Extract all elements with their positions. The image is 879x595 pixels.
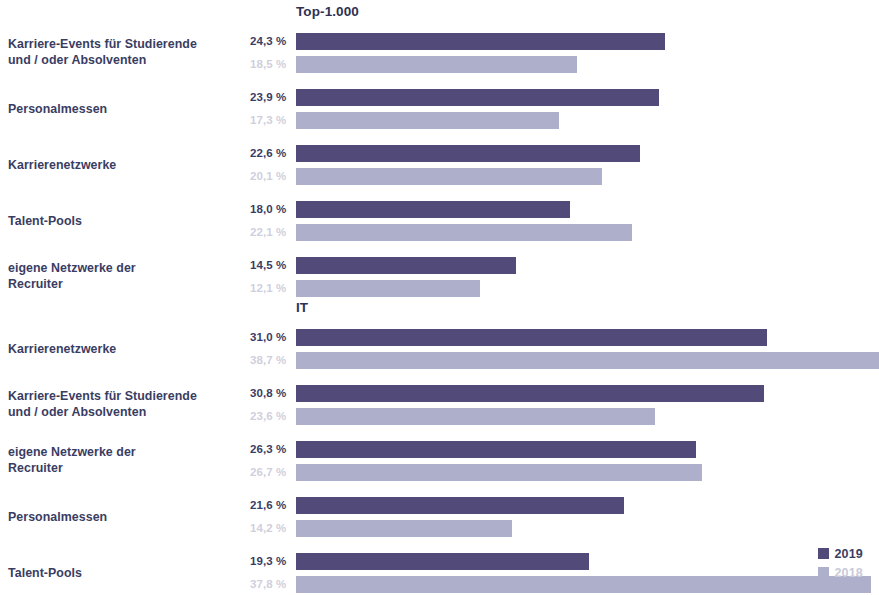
bar-2019 [296, 441, 696, 458]
bar-group: 23,9 %17,3 % [0, 88, 879, 134]
bar-2018 [296, 224, 632, 241]
bar-2019 [296, 257, 516, 274]
bar-value-label-2019: 18,0 % [250, 200, 292, 219]
legend-item-2018: 2018 [818, 564, 863, 581]
bar-line-2018: 37,8 % [0, 575, 879, 594]
bar-2018 [296, 352, 879, 369]
bar-line-2019: 31,0 % [0, 328, 879, 347]
chart-row: Karrierenetzwerke31,0 %38,7 % [0, 322, 879, 378]
bar-line-2019: 24,3 % [0, 32, 879, 51]
bar-group: 31,0 %38,7 % [0, 328, 879, 374]
bar-group: 24,3 %18,5 % [0, 32, 879, 78]
bar-value-label-2019: 14,5 % [250, 256, 292, 275]
bar-value-label-2018: 20,1 % [250, 167, 292, 186]
bar-line-2018: 14,2 % [0, 519, 879, 538]
bar-line-2019: 26,3 % [0, 440, 879, 459]
bar-2019 [296, 201, 570, 218]
bar-2019 [296, 385, 764, 402]
chart-legend: 2019 2018 [818, 545, 863, 583]
bar-value-label-2018: 23,6 % [250, 407, 292, 426]
bar-line-2019: 30,8 % [0, 384, 879, 403]
bar-line-2019: 22,6 % [0, 144, 879, 163]
bar-line-2018: 20,1 % [0, 167, 879, 186]
bar-2018 [296, 168, 602, 185]
bar-group: 19,3 %37,8 % [0, 552, 879, 595]
bar-group: 30,8 %23,6 % [0, 384, 879, 430]
bar-2019 [296, 553, 589, 570]
bar-value-label-2018: 37,8 % [250, 575, 292, 594]
bar-value-label-2019: 21,6 % [250, 496, 292, 515]
legend-swatch-icon-2018 [818, 567, 829, 578]
bar-2018 [296, 56, 577, 73]
bar-value-label-2019: 26,3 % [250, 440, 292, 459]
bar-value-label-2019: 22,6 % [250, 144, 292, 163]
chart-row: Talent-Pools18,0 %22,1 % [0, 194, 879, 250]
bar-value-label-2019: 31,0 % [250, 328, 292, 347]
bar-2018 [296, 576, 871, 593]
bar-value-label-2019: 19,3 % [250, 552, 292, 571]
bar-line-2018: 38,7 % [0, 351, 879, 370]
bar-group: 14,5 %12,1 % [0, 256, 879, 302]
bar-line-2019: 21,6 % [0, 496, 879, 515]
legend-label-2018: 2018 [834, 566, 863, 580]
bar-value-label-2018: 17,3 % [250, 111, 292, 130]
panel-rows: Karriere-Events für Studierendeund / ode… [0, 26, 879, 306]
bar-line-2018: 12,1 % [0, 279, 879, 298]
bar-2018 [296, 464, 702, 481]
bar-value-label-2018: 22,1 % [250, 223, 292, 242]
chart-row: Personalmessen23,9 %17,3 % [0, 82, 879, 138]
panel-title: Top-1.000 [296, 4, 359, 19]
bar-2019 [296, 33, 665, 50]
legend-swatch-icon-2019 [818, 548, 829, 559]
bar-line-2018: 23,6 % [0, 407, 879, 426]
chart-row: eigene Netzwerke derRecruiter14,5 %12,1 … [0, 250, 879, 306]
bar-line-2019: 23,9 % [0, 88, 879, 107]
chart-row: Personalmessen21,6 %14,2 % [0, 490, 879, 546]
bar-2019 [296, 329, 767, 346]
chart-row: Karrierenetzwerke22,6 %20,1 % [0, 138, 879, 194]
bar-2019 [296, 89, 659, 106]
panel-title: IT [296, 300, 308, 315]
bar-2018 [296, 408, 655, 425]
bar-value-label-2019: 30,8 % [250, 384, 292, 403]
bar-value-label-2019: 24,3 % [250, 32, 292, 51]
bar-2018 [296, 112, 559, 129]
bar-value-label-2018: 38,7 % [250, 351, 292, 370]
bar-group: 18,0 %22,1 % [0, 200, 879, 246]
chart-row: eigene Netzwerke derRecruiter26,3 %26,7 … [0, 434, 879, 490]
bar-value-label-2018: 26,7 % [250, 463, 292, 482]
bar-2019 [296, 145, 640, 162]
bar-line-2018: 17,3 % [0, 111, 879, 130]
bar-group: 22,6 %20,1 % [0, 144, 879, 190]
bar-2019 [296, 497, 624, 514]
bar-value-label-2019: 23,9 % [250, 88, 292, 107]
bar-value-label-2018: 18,5 % [250, 55, 292, 74]
chart-row: Karriere-Events für Studierendeund / ode… [0, 26, 879, 82]
bar-2018 [296, 280, 480, 297]
panel-rows: Karrierenetzwerke31,0 %38,7 %Karriere-Ev… [0, 322, 879, 595]
bar-value-label-2018: 12,1 % [250, 279, 292, 298]
bar-line-2018: 18,5 % [0, 55, 879, 74]
bar-line-2018: 22,1 % [0, 223, 879, 242]
legend-label-2019: 2019 [834, 547, 863, 561]
bar-line-2019: 18,0 % [0, 200, 879, 219]
chart-container: Top-1.000Karriere-Events für Studierende… [0, 0, 879, 595]
bar-group: 21,6 %14,2 % [0, 496, 879, 542]
bar-line-2019: 19,3 % [0, 552, 879, 571]
bar-line-2018: 26,7 % [0, 463, 879, 482]
bar-2018 [296, 520, 512, 537]
chart-row: Karriere-Events für Studierendeund / ode… [0, 378, 879, 434]
bar-line-2019: 14,5 % [0, 256, 879, 275]
chart-row: Talent-Pools19,3 %37,8 % [0, 546, 879, 595]
bar-group: 26,3 %26,7 % [0, 440, 879, 486]
legend-item-2019: 2019 [818, 545, 863, 562]
bar-value-label-2018: 14,2 % [250, 519, 292, 538]
